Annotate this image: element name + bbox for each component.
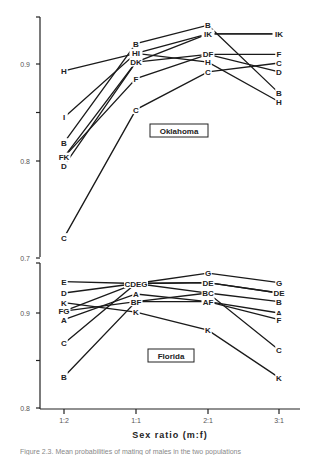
y-tick-label: 0.9 (20, 310, 30, 317)
point-label: C (276, 346, 282, 355)
point-label: F (277, 50, 282, 59)
y-tick-label: 0.8 (20, 405, 30, 412)
point-label: DE (202, 279, 214, 288)
point-label: K (61, 299, 67, 308)
y-tick-label: 0.8 (20, 158, 30, 165)
point-label: B (61, 139, 67, 148)
point-label: BC (202, 289, 214, 298)
point-label: F (134, 75, 139, 84)
point-label: C (61, 234, 67, 243)
oklahoma-panel: 0.90.80.7BCDFKHIBCDKFHIBCDFHIKBCDFHIKOkl… (20, 17, 285, 262)
point-label: CDEG (124, 280, 147, 289)
series-line-B (64, 293, 279, 377)
point-label: C (276, 59, 282, 68)
point-label: FK (59, 153, 70, 162)
point-label: H (205, 58, 211, 67)
point-label: H (276, 98, 282, 107)
figure-caption: Figure 2.3. Mean probabilities of mating… (20, 448, 310, 455)
series-line-C (64, 284, 279, 351)
point-label: G (276, 279, 282, 288)
point-label: D (61, 289, 67, 298)
point-label: B (276, 298, 282, 307)
sex-ratio-chart: 0.90.80.7BCDFKHIBCDKFHIBCDFHIKBCDFHIKOkl… (0, 0, 314, 459)
point-label: B (205, 21, 211, 30)
series-line-K (64, 303, 279, 378)
panel-title: Florida (158, 352, 185, 361)
point-label: HI (132, 49, 140, 58)
point-label: D (61, 162, 67, 171)
point-label: AF (203, 298, 214, 307)
point-label: F (277, 316, 282, 325)
x-axis-label: Sex ratio (m:f) (132, 430, 208, 440)
series-line-H (64, 53, 279, 102)
series-line-E (64, 282, 279, 293)
series-line-K (64, 34, 279, 157)
point-label: K (276, 374, 282, 383)
x-tick-label: 1:1 (131, 417, 141, 424)
series-line-G (64, 273, 279, 311)
x-tick-label: 2:1 (203, 417, 213, 424)
point-label: FG (58, 307, 69, 316)
point-label: IK (275, 30, 283, 39)
point-label: DE (273, 289, 285, 298)
point-label: B (61, 373, 67, 382)
point-label: C (61, 339, 67, 348)
y-tick-label: 0.7 (20, 255, 30, 262)
x-tick-label: 3:1 (274, 417, 284, 424)
x-tick-label: 1:2 (59, 417, 69, 424)
point-label: H (61, 67, 67, 76)
point-label: K (133, 308, 139, 317)
panel-title: Oklahoma (160, 127, 199, 136)
point-label: A (61, 316, 67, 325)
point-label: IK (204, 30, 212, 39)
point-label: C (133, 106, 139, 115)
florida-panel: 0.90.8ABCDEFGKABFCDEGKAFBCDEGKABCDEFGKFl… (20, 263, 285, 412)
point-label: C (205, 68, 211, 77)
series-line-I (64, 34, 279, 118)
point-label: D (276, 68, 282, 77)
series-line-F (64, 54, 279, 157)
x-axis: 1:21:12:13:1 (40, 409, 300, 424)
point-label: E (61, 278, 67, 287)
point-label: B (133, 40, 139, 49)
point-label: K (205, 326, 211, 335)
point-label: G (205, 269, 211, 278)
y-tick-label: 0.9 (20, 61, 30, 68)
point-label: BF (131, 298, 142, 307)
series-line-D (64, 54, 279, 166)
point-label: B (276, 89, 282, 98)
point-label: DK (130, 58, 142, 67)
point-label: I (63, 113, 65, 122)
